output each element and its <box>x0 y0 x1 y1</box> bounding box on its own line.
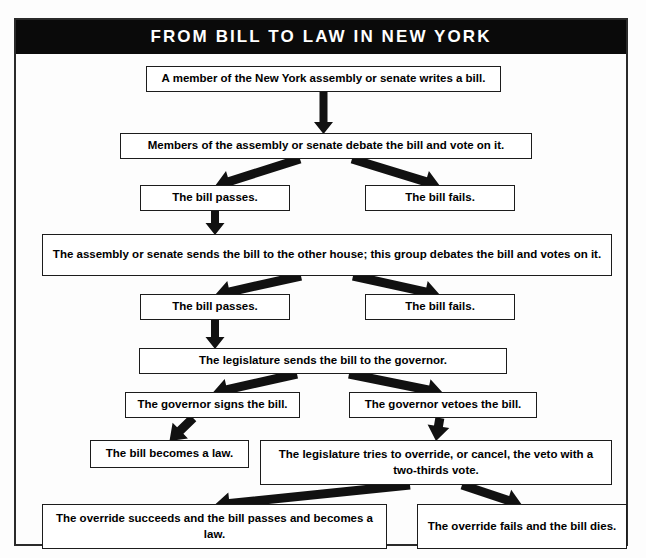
flow-node: Members of the assembly or senate debate… <box>120 133 532 159</box>
flow-node: The governor signs the bill. <box>125 392 300 418</box>
flow-node: A member of the New York assembly or sen… <box>146 66 501 92</box>
flow-node: The bill fails. <box>365 294 515 320</box>
flow-node: The bill passes. <box>140 185 290 211</box>
flow-node: The legislature tries to override, or ca… <box>260 440 612 485</box>
poster-title: FROM BILL TO LAW IN NEW YORK <box>16 20 626 54</box>
flow-node: The bill fails. <box>365 185 515 211</box>
flowchart-canvas: A member of the New York assembly or sen… <box>16 54 626 544</box>
flow-node: The bill passes. <box>140 294 290 320</box>
flow-arrow <box>206 320 225 349</box>
flow-arrow <box>170 415 197 441</box>
flow-node: The override succeeds and the bill passe… <box>42 504 387 549</box>
flowchart-poster: FROM BILL TO LAW IN NEW YORK A member of… <box>0 0 646 558</box>
flow-arrow <box>314 92 333 134</box>
flow-node: The legislature sends the bill to the go… <box>139 348 507 374</box>
flow-node: The governor vetoes the bill. <box>349 392 537 418</box>
flow-node: The bill becomes a law. <box>90 440 249 468</box>
flow-arrow <box>428 417 450 441</box>
flow-arrow <box>206 211 225 235</box>
flow-node: The override fails and the bill dies. <box>417 504 627 549</box>
poster-frame: FROM BILL TO LAW IN NEW YORK A member of… <box>14 18 628 546</box>
flow-node: The assembly or senate sends the bill to… <box>42 234 612 276</box>
